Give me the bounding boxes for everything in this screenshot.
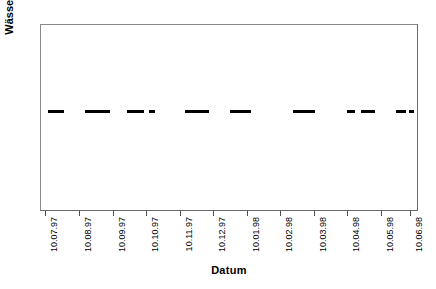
data-segment: [127, 110, 145, 113]
data-segment: [230, 110, 251, 113]
x-axis-tick-label: 10.05.98: [385, 217, 396, 263]
x-axis-tick: [280, 211, 281, 216]
x-axis-ticks: [40, 211, 418, 216]
y-axis-title-label: Wässerung: [0, 0, 18, 60]
x-axis-tick-labels: 10.07.9710.08.9710.09.9710.10.9710.11.97…: [40, 217, 418, 263]
x-axis-tick-label: 10.03.98: [318, 217, 329, 263]
x-axis-tick: [79, 211, 80, 216]
data-segment: [293, 110, 315, 113]
x-axis-tick: [410, 211, 411, 216]
x-axis-tick: [347, 211, 348, 216]
x-axis-tick: [381, 211, 382, 216]
data-segment: [48, 110, 64, 113]
x-axis-tick-label: 10.11.97: [184, 217, 195, 263]
x-axis-tick: [113, 211, 114, 216]
x-axis-tick-label: 10.07.97: [49, 217, 60, 263]
x-axis-tick-label: 10.01.98: [251, 217, 262, 263]
x-axis-tick: [45, 211, 46, 216]
data-segment: [347, 110, 355, 113]
data-segment: [85, 110, 110, 113]
x-axis-tick: [180, 211, 181, 216]
y-axis-title: Wässerung: [0, 0, 18, 60]
x-axis-tick: [146, 211, 147, 216]
x-axis-tick: [247, 211, 248, 216]
data-segment: [409, 110, 414, 113]
x-axis-tick-label: 10.04.98: [351, 217, 362, 263]
x-axis-tick: [314, 211, 315, 216]
data-series-waesserung: [41, 25, 417, 210]
plot-area: [40, 24, 418, 211]
x-axis-tick: [213, 211, 214, 216]
x-axis-tick-label: 10.06.98: [414, 217, 425, 263]
data-segment: [361, 110, 375, 113]
x-axis-tick-label: 10.09.97: [117, 217, 128, 263]
x-axis-tick-label: 10.10.97: [150, 217, 161, 263]
x-axis-tick-label: 10.12.97: [217, 217, 228, 263]
chart-figure: Wässerung 10.07.9710.08.9710.09.9710.10.…: [0, 0, 436, 289]
data-segment: [396, 110, 406, 113]
x-axis-tick-label: 10.08.97: [83, 217, 94, 263]
data-segment: [185, 110, 209, 113]
data-segment: [149, 110, 155, 113]
x-axis-tick-label: 10.02.98: [284, 217, 295, 263]
x-axis-title: Datum: [40, 264, 418, 276]
